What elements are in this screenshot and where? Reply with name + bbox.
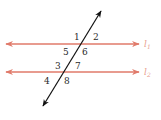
angle-label-4: 4: [44, 76, 50, 86]
line-label-l1-subscript: 1: [147, 43, 151, 50]
angle-label-5: 5: [63, 47, 69, 57]
parallel-lines-diagram: l1 l2 1 2 5 6 3 7 4 8: [0, 0, 161, 120]
angle-label-6: 6: [82, 47, 88, 57]
angle-label-3: 3: [55, 61, 61, 71]
line-label-l1: l1: [144, 39, 151, 50]
line-label-l2: l2: [144, 67, 151, 78]
angle-label-2: 2: [93, 32, 99, 42]
transversal-line: [43, 11, 101, 106]
angle-label-7: 7: [75, 61, 81, 71]
line-label-l2-subscript: 2: [146, 71, 151, 78]
angle-label-1: 1: [74, 32, 80, 42]
angle-label-8: 8: [64, 76, 70, 86]
